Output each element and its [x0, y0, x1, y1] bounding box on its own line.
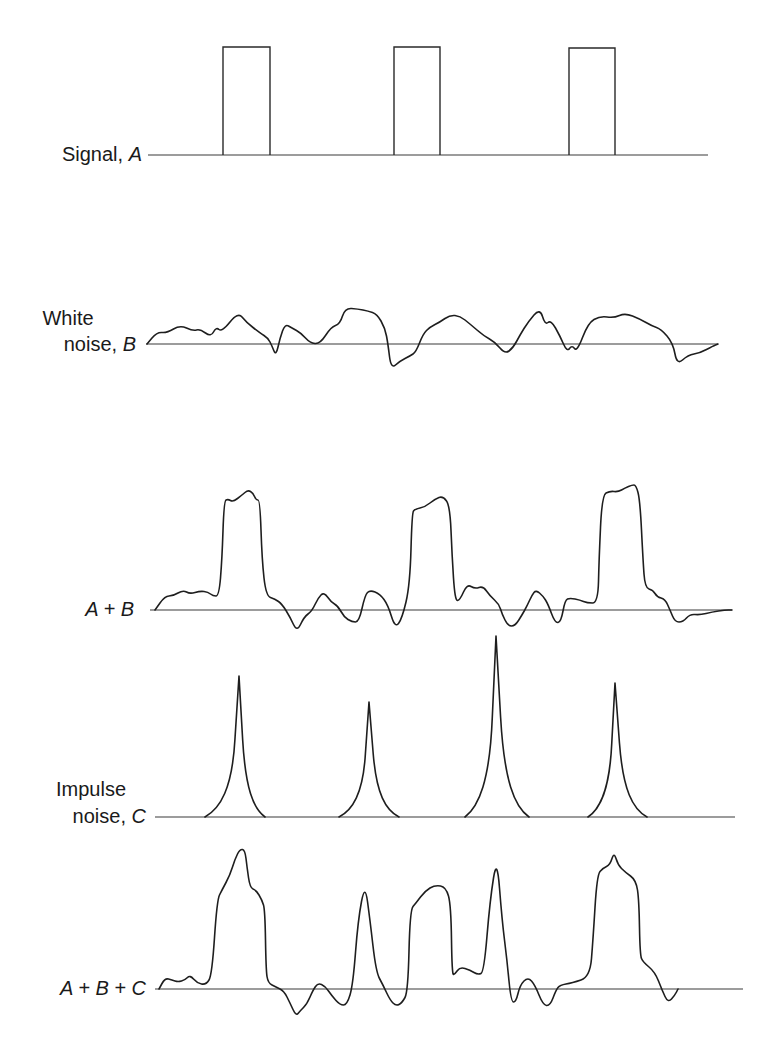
label-signal-a: Signal, A	[0, 142, 142, 166]
impulse-spike	[588, 683, 647, 817]
rectangular-pulse	[223, 47, 270, 155]
signal-noise-figure: Signal, A White noise, B A + B Impulse n…	[0, 0, 773, 1058]
label-variable: A	[129, 143, 142, 165]
label-a-plus-b: A + B	[0, 597, 134, 621]
label-variable: B	[123, 333, 136, 355]
label-white-noise-line1: White	[0, 306, 136, 330]
label-impulse-noise-line1: Impulse	[56, 777, 126, 801]
label-a-plus-b-plus-c: A + B + C	[0, 976, 146, 1000]
impulse-spike	[339, 702, 399, 817]
label-text: Impulse	[56, 778, 126, 800]
label-variable: A + B + C	[60, 977, 146, 999]
label-white-noise-b: noise, B	[0, 332, 136, 356]
label-impulse-noise-c: noise, C	[0, 804, 146, 828]
waveform-trace	[155, 485, 732, 628]
series-white-noise-b	[146, 308, 718, 365]
label-text: White	[42, 307, 93, 329]
impulse-spike	[465, 636, 529, 817]
label-variable: C	[132, 805, 146, 827]
label-variable: A + B	[85, 598, 134, 620]
series-a-b-c	[155, 849, 743, 1014]
rectangular-pulse	[394, 47, 440, 155]
series-signal-a	[148, 47, 708, 155]
label-text: Signal,	[62, 143, 129, 165]
label-text: noise,	[73, 805, 132, 827]
label-text: noise,	[64, 333, 123, 355]
rectangular-pulse	[569, 48, 615, 155]
series-a-b	[150, 485, 732, 628]
waveform-trace	[147, 308, 718, 365]
series-impulse-noise-c	[155, 636, 735, 817]
impulse-spike	[205, 676, 265, 817]
